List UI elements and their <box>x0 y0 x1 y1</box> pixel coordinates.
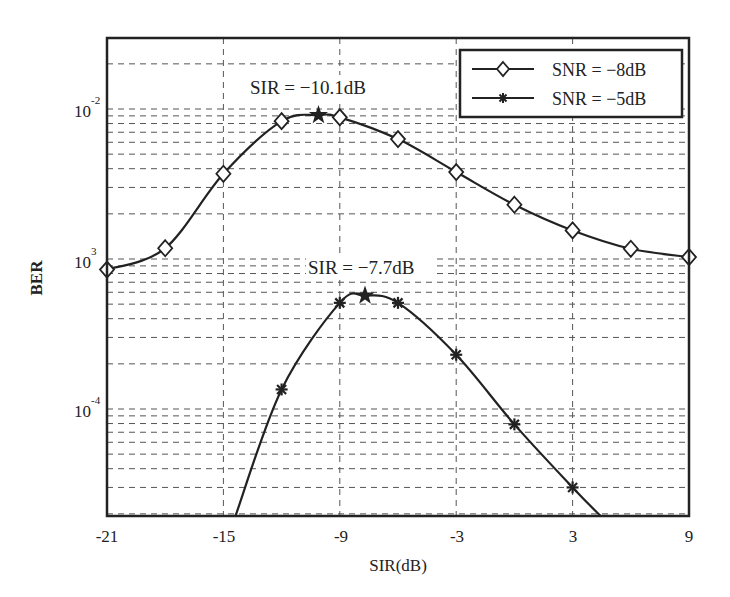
ber-vs-sir-chart: -21 -15 -9 -3 3 9 10-2 103 10-4 SIR(dB) … <box>0 0 730 597</box>
legend-label: SNR = −5dB <box>552 89 646 109</box>
star-marker-icon <box>508 418 520 430</box>
diamond-marker-icon <box>566 222 580 238</box>
diamond-marker-icon <box>391 131 405 147</box>
star-marker-icon <box>498 93 508 103</box>
peak-star-icon <box>356 286 375 304</box>
y-tick-label: 103 <box>74 245 97 272</box>
peak-annotation-snr-8: SIR = −10.1dB <box>250 77 366 98</box>
x-tick-label: -21 <box>96 527 119 546</box>
star-marker-icon <box>276 383 288 395</box>
peak-star-icon <box>309 105 328 123</box>
x-axis-label: SIR(dB) <box>369 556 427 575</box>
y-tick-label: 10-4 <box>74 394 101 421</box>
diamond-marker-icon <box>333 109 347 125</box>
x-tick-label: 9 <box>685 527 694 546</box>
diamond-marker-icon <box>507 197 521 213</box>
x-tick-label: -3 <box>450 527 464 546</box>
x-tick-label: -15 <box>213 527 236 546</box>
x-tick-label: -9 <box>334 527 348 546</box>
x-tick-labels: -21 -15 -9 -3 3 9 <box>96 527 694 546</box>
diamond-marker-icon <box>624 241 638 257</box>
peak-annotation-snr-5: SIR = −7.7dB <box>308 257 414 278</box>
legend-label: SNR = −8dB <box>552 60 646 80</box>
y-axis-label: BER <box>27 260 46 296</box>
legend: SNR = −8dB SNR = −5dB <box>460 50 682 117</box>
data-curves <box>107 114 689 517</box>
x-tick-label: 3 <box>569 527 578 546</box>
curve-snr-minus-5db <box>235 293 602 517</box>
star-marker-icon <box>450 349 462 361</box>
y-tick-labels: 10-2 103 10-4 <box>74 94 101 421</box>
diamond-marker-icon <box>449 164 463 180</box>
y-tick-label: 10-2 <box>74 94 100 121</box>
star-marker-icon <box>334 297 346 309</box>
data-markers <box>100 105 696 493</box>
star-marker-icon <box>392 297 404 309</box>
star-marker-icon <box>567 481 579 493</box>
